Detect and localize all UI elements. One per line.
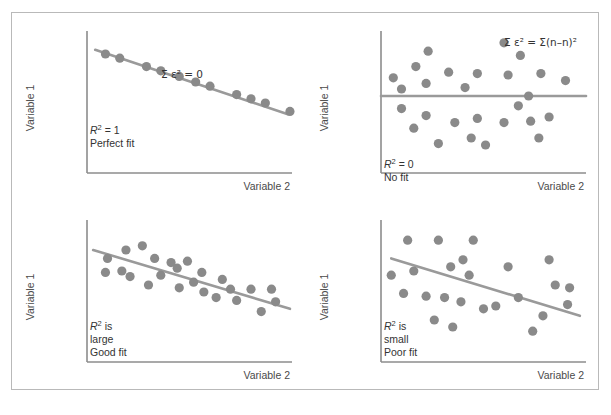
data-point (460, 83, 469, 92)
axes (87, 220, 292, 362)
y-axis-label: Variable 1 (318, 274, 330, 321)
data-point (514, 101, 523, 110)
data-point (121, 245, 130, 254)
annotation-r-squared: R2 is (384, 319, 406, 333)
annotation-sum-epsilon: Σ ε² = Σ(n–n)² (504, 36, 577, 48)
annotation-r-squared: R2 = 1 (90, 123, 120, 137)
data-point (534, 133, 543, 142)
data-point (473, 69, 482, 78)
data-point (399, 289, 408, 298)
panel-no-fit: Variable 1 Variable 2 Σ ε² = Σ(n–n)² R2 … (306, 13, 600, 202)
x-axis-label: Variable 2 (537, 180, 584, 192)
data-point (481, 140, 490, 149)
annotation-magnitude: small (384, 333, 409, 345)
data-point (444, 68, 453, 77)
data-point (271, 297, 280, 306)
data-point (261, 98, 270, 107)
annotation-r-squared: R2 = 0 (384, 157, 414, 171)
chart-no-fit: Variable 1 Variable 2 Σ ε² = Σ(n–n)² R2 … (306, 13, 600, 202)
data-point (424, 47, 433, 56)
data-point (422, 79, 431, 88)
annotation-fit-quality: Poor fit (384, 346, 417, 358)
data-point (125, 272, 134, 281)
x-axis-label: Variable 2 (243, 180, 290, 192)
data-point (138, 241, 147, 250)
data-point (397, 84, 406, 93)
data-point (563, 300, 572, 309)
data-point (246, 94, 255, 103)
axes (381, 31, 586, 173)
data-point (526, 117, 535, 126)
data-point (504, 70, 513, 79)
data-point (422, 292, 431, 301)
x-axis-label: Variable 2 (537, 369, 584, 381)
data-point (536, 69, 545, 78)
annotation-r-squared: R2 is (90, 319, 112, 333)
annotation-sum-epsilon: Σ ε² = 0 (161, 68, 203, 80)
data-point (467, 133, 476, 142)
data-point (232, 90, 241, 99)
data-point (465, 271, 474, 280)
data-point (257, 307, 266, 316)
annotation-fit-quality: No fit (384, 171, 409, 183)
panel-poor-fit: Variable 1 Variable 2 R2 is small Poor f… (306, 202, 600, 391)
data-points (389, 38, 570, 149)
data-point (101, 268, 110, 277)
data-point (183, 257, 192, 266)
annotation-magnitude: large (90, 333, 114, 345)
data-point (226, 285, 235, 294)
data-point (551, 280, 560, 289)
data-point (103, 254, 112, 263)
y-axis-label: Variable 1 (318, 85, 330, 132)
data-point (514, 293, 523, 302)
data-point (524, 91, 533, 100)
data-point (473, 114, 482, 123)
data-point (150, 254, 159, 263)
data-point (409, 124, 418, 133)
data-point (389, 73, 398, 82)
data-point (430, 315, 439, 324)
data-point (199, 287, 208, 296)
data-point (456, 297, 465, 306)
data-point (403, 236, 412, 245)
data-point (156, 271, 165, 280)
data-point (175, 283, 184, 292)
data-point (434, 236, 443, 245)
data-point (142, 62, 151, 71)
data-point (117, 266, 126, 275)
chart-poor-fit: Variable 1 Variable 2 R2 is small Poor f… (306, 202, 600, 391)
panel-good-fit: Variable 1 Variable 2 R2 is large Good f… (12, 202, 306, 391)
data-point (285, 107, 294, 116)
data-point (491, 301, 500, 310)
data-point (479, 304, 488, 313)
data-point (450, 118, 459, 127)
x-axis-label: Variable 2 (243, 369, 290, 381)
data-point (246, 285, 255, 294)
data-point (397, 104, 406, 113)
data-point (504, 262, 513, 271)
data-point (545, 112, 554, 121)
y-axis-label: Variable 1 (24, 274, 36, 321)
data-point (144, 280, 153, 289)
data-point (528, 327, 537, 336)
data-point (212, 293, 221, 302)
data-point (267, 285, 276, 294)
data-point (545, 255, 554, 264)
data-point (434, 139, 443, 148)
data-point (538, 311, 547, 320)
annotation-fit-quality: Perfect fit (90, 137, 134, 149)
data-point (469, 236, 478, 245)
data-point (422, 111, 431, 120)
data-point (516, 51, 525, 60)
data-point (411, 62, 420, 71)
figure-frame: Variable 1 Variable 2 Σ ε² = 0 R2 = 1 Pe… (11, 12, 599, 390)
chart-perfect-fit: Variable 1 Variable 2 Σ ε² = 0 R2 = 1 Pe… (12, 13, 306, 202)
data-point (446, 262, 455, 271)
data-point (189, 278, 198, 287)
data-point (115, 54, 124, 63)
data-point (387, 271, 396, 280)
data-point (232, 296, 241, 305)
data-point (173, 264, 182, 273)
data-point (205, 82, 214, 91)
y-axis-label: Variable 1 (24, 85, 36, 132)
